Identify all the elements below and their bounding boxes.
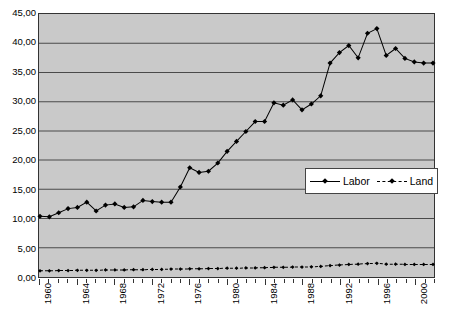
y-tick-label: 0,00 bbox=[18, 273, 37, 282]
data-point-marker bbox=[38, 269, 42, 273]
data-point-marker bbox=[403, 263, 407, 267]
y-tick-label: 40,00 bbox=[12, 37, 36, 46]
x-tick-mark bbox=[48, 279, 49, 283]
data-point-marker bbox=[319, 265, 323, 269]
x-tick-mark bbox=[340, 279, 341, 285]
data-point-marker bbox=[300, 265, 304, 269]
y-tick-label: 5,00 bbox=[18, 244, 37, 253]
data-point-marker bbox=[159, 200, 164, 205]
data-point-marker bbox=[263, 266, 267, 270]
x-tick-mark bbox=[77, 279, 78, 285]
x-tick-mark bbox=[368, 279, 369, 283]
x-tick-label: 1976 bbox=[193, 283, 202, 304]
data-point-marker bbox=[56, 210, 61, 215]
data-point-marker bbox=[85, 268, 89, 272]
x-tick-mark bbox=[67, 279, 68, 283]
data-point-marker bbox=[271, 100, 276, 105]
x-tick-mark bbox=[189, 279, 190, 285]
legend-line-dashed-icon bbox=[377, 177, 407, 186]
y-tick-label: 20,00 bbox=[12, 155, 36, 164]
data-point-marker bbox=[272, 265, 276, 269]
data-point-marker bbox=[207, 267, 211, 271]
data-point-marker bbox=[122, 268, 126, 272]
x-tick-mark bbox=[86, 279, 87, 283]
x-tick-mark bbox=[406, 279, 407, 283]
x-tick-mark bbox=[425, 279, 426, 283]
y-tick-label: 45,00 bbox=[12, 8, 36, 17]
data-point-marker bbox=[37, 214, 42, 219]
x-tick-mark bbox=[302, 279, 303, 285]
x-tick-mark bbox=[124, 279, 125, 283]
x-tick-label: 1960 bbox=[43, 283, 52, 304]
data-point-marker bbox=[328, 264, 332, 268]
x-tick-label: 1984 bbox=[269, 283, 278, 304]
x-tick-mark bbox=[105, 279, 106, 283]
x-tick-mark bbox=[434, 279, 435, 283]
x-tick-mark bbox=[378, 279, 379, 285]
data-point-marker bbox=[309, 265, 313, 269]
data-point-marker bbox=[57, 269, 61, 273]
data-point-marker bbox=[216, 267, 220, 271]
data-point-marker bbox=[103, 203, 108, 208]
x-tick-label: 1996 bbox=[382, 283, 391, 304]
data-point-marker bbox=[394, 262, 398, 266]
data-point-marker bbox=[253, 266, 257, 270]
data-point-marker bbox=[291, 265, 295, 269]
x-tick-label: 1964 bbox=[81, 283, 90, 304]
data-point-marker bbox=[225, 266, 229, 270]
y-axis: 0,005,0010,0015,0020,0025,0030,0035,0040… bbox=[0, 0, 36, 292]
y-tick-label: 25,00 bbox=[12, 126, 36, 135]
data-point-marker bbox=[412, 263, 416, 267]
data-point-marker bbox=[197, 267, 201, 271]
data-point-marker bbox=[235, 266, 239, 270]
data-point-marker bbox=[244, 266, 248, 270]
data-point-marker bbox=[122, 205, 127, 210]
data-point-marker bbox=[76, 268, 80, 272]
x-tick-mark bbox=[58, 279, 59, 283]
legend-entry-labor: Labor bbox=[310, 175, 370, 187]
data-point-marker bbox=[281, 265, 285, 269]
chart-container: 0,005,0010,0015,0020,0025,0030,0035,0040… bbox=[0, 0, 451, 315]
data-point-marker bbox=[338, 263, 342, 267]
x-tick-mark bbox=[274, 279, 275, 283]
legend-entry-land: Land bbox=[377, 175, 433, 187]
data-point-marker bbox=[113, 268, 117, 272]
data-point-marker bbox=[430, 61, 435, 66]
x-tick-mark bbox=[246, 279, 247, 283]
data-point-marker bbox=[178, 184, 183, 189]
data-point-marker bbox=[196, 170, 201, 175]
legend-label-land: Land bbox=[410, 175, 433, 187]
data-point-marker bbox=[47, 269, 51, 273]
y-tick-label: 35,00 bbox=[12, 67, 36, 76]
x-tick-mark bbox=[142, 279, 143, 283]
x-tick-label: 1992 bbox=[344, 283, 353, 304]
series-layer bbox=[39, 14, 434, 277]
y-tick-label: 15,00 bbox=[12, 185, 36, 194]
x-tick-label: 1980 bbox=[231, 283, 240, 304]
x-tick-mark bbox=[39, 279, 40, 285]
x-tick-mark bbox=[133, 279, 134, 283]
data-point-marker bbox=[132, 268, 136, 272]
x-tick-label: 2000 bbox=[419, 283, 428, 304]
plot-area bbox=[38, 13, 435, 278]
data-point-marker bbox=[412, 59, 417, 64]
data-point-marker bbox=[65, 206, 70, 211]
data-point-marker bbox=[281, 103, 286, 108]
data-point-marker bbox=[141, 268, 145, 272]
data-point-marker bbox=[47, 214, 52, 219]
x-tick-mark bbox=[265, 279, 266, 285]
data-point-marker bbox=[366, 262, 370, 266]
data-point-marker bbox=[150, 268, 154, 272]
x-tick-mark bbox=[415, 279, 416, 285]
data-point-marker bbox=[94, 268, 98, 272]
x-tick-mark bbox=[293, 279, 294, 283]
data-point-marker bbox=[104, 268, 108, 272]
chart-legend: Labor Land bbox=[305, 168, 438, 194]
x-tick-mark bbox=[152, 279, 153, 285]
x-tick-mark bbox=[218, 279, 219, 283]
x-tick-mark bbox=[161, 279, 162, 283]
x-tick-mark bbox=[349, 279, 350, 283]
data-point-marker bbox=[187, 165, 192, 170]
data-point-marker bbox=[188, 267, 192, 271]
data-point-marker bbox=[66, 269, 70, 273]
